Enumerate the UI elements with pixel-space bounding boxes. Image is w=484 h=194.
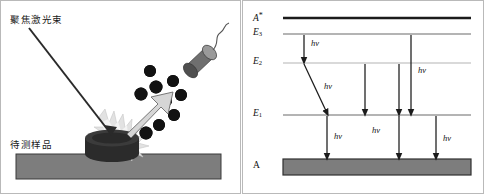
- photon-label-e2-e1: hv: [324, 81, 332, 91]
- photon-label-e1-a-right: hv: [443, 133, 451, 143]
- energy-level-panel: A* E3 E2 E1 A hv hv hv hv hv hv: [242, 0, 484, 194]
- level-label-A-excited: A*: [253, 11, 263, 23]
- figure-canvas: 聚焦激光束 待测样品: [0, 0, 484, 194]
- detector-probe: [181, 23, 229, 80]
- level-label-E1: E1: [253, 108, 262, 118]
- photon-label-e1-a-left: hv: [334, 131, 342, 141]
- level-label-E2: E2: [253, 56, 262, 66]
- jablonski-diagram: [243, 1, 484, 194]
- photon-label-e3-e2: hv: [311, 38, 319, 48]
- ground-state-band: [283, 159, 471, 175]
- photon-label-e1-a-mid: hv: [372, 125, 380, 135]
- level-label-E3: E3: [253, 27, 262, 37]
- laser-ablation-panel: 聚焦激光束 待测样品: [0, 0, 241, 194]
- photon-label-e3-e1: hv: [418, 65, 426, 75]
- ablation-drawing: [1, 1, 241, 194]
- level-label-A-ground: A: [253, 160, 260, 170]
